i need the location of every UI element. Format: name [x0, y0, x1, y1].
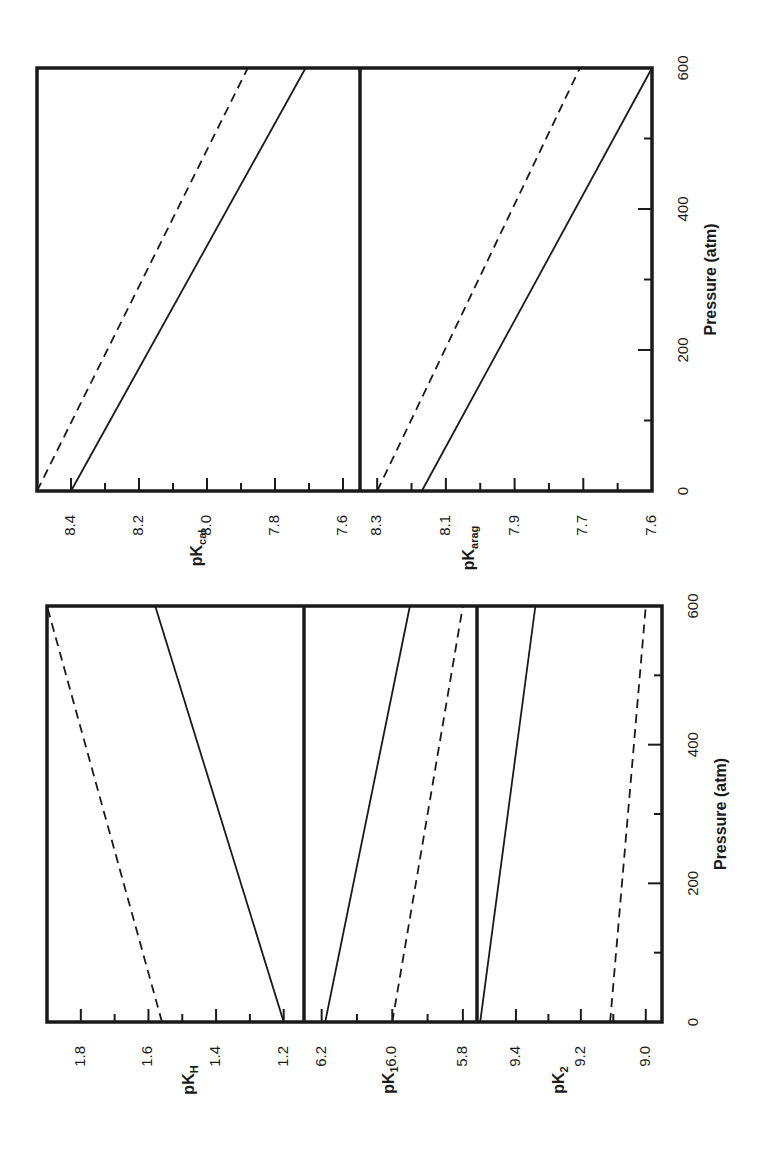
value-tick-label: 9.4: [506, 1046, 523, 1067]
value-tick-label: 9.0: [636, 1046, 653, 1067]
pK1-dashed-line: [392, 606, 463, 1022]
labels-layer: 0200400600Pressure (atm)8.48.28.07.87.6p…: [61, 55, 729, 1094]
figure-root: 0200400600Pressure (atm)8.48.28.07.87.6p…: [0, 0, 772, 1157]
pressure-tick-label: 600: [674, 55, 691, 80]
value-tick-label: 8.4: [61, 515, 78, 536]
axis-label-main: pK: [180, 1073, 197, 1095]
pressure-tick-label: 200: [674, 337, 691, 362]
pressure-tick-label: 600: [684, 593, 701, 618]
pressure-axis-title: Pressure (atm): [712, 758, 729, 870]
pKcal-dashed-line: [37, 68, 248, 491]
value-tick-label: 7.6: [333, 515, 350, 536]
frames-layer: [37, 68, 662, 1022]
axis-label-main: pK: [550, 1072, 567, 1094]
axis-label-subscript: cal: [196, 530, 208, 545]
value-tick-label: 8.2: [129, 515, 146, 536]
panel-axis-label-pKH: pKH: [180, 1065, 200, 1094]
panel-axis-label-pKcal: pKcal: [188, 530, 208, 567]
pK2-solid-line: [480, 606, 535, 1022]
pKH-solid-line: [155, 606, 284, 1022]
pKarag-dashed-line: [377, 68, 580, 491]
value-tick-label: 1.8: [71, 1046, 88, 1067]
value-tick-label: 7.8: [265, 515, 282, 536]
pressure-tick-label: 0: [684, 1018, 701, 1026]
value-tick-label: 1.6: [138, 1046, 155, 1067]
axis-label-subscript: 1: [388, 1066, 400, 1072]
value-tick-label: 8.3: [367, 515, 384, 536]
axis-label-main: pK: [460, 549, 477, 571]
value-tick-label: 9.2: [571, 1046, 588, 1067]
axis-label-subscript: arag: [468, 526, 480, 549]
data-lines-layer: [37, 68, 652, 1022]
figure-frame-bottom: [47, 606, 662, 1022]
value-tick-label: 8.1: [436, 515, 453, 536]
pK2-dashed-line: [610, 606, 646, 1022]
axis-label-main: pK: [188, 545, 205, 567]
pressure-tick-label: 200: [684, 871, 701, 896]
value-tick-label: 1.2: [274, 1046, 291, 1067]
pressure-tick-label: 400: [684, 732, 701, 757]
value-tick-label: 7.7: [573, 515, 590, 536]
value-tick-label: 6.0: [382, 1046, 399, 1067]
pressure-tick-label: 0: [674, 487, 691, 495]
axis-label-subscript: 2: [558, 1066, 570, 1072]
axis-label-main: pK: [380, 1072, 397, 1094]
panel-axis-label-pK1: pK1: [380, 1066, 400, 1093]
panel-axis-label-pKarag: pKarag: [460, 526, 480, 571]
pKcal-solid-line: [71, 68, 306, 491]
value-tick-label: 1.4: [206, 1046, 223, 1067]
value-tick-label: 6.2: [312, 1046, 329, 1067]
axis-label-subscript: H: [188, 1065, 200, 1073]
value-tick-label: 5.8: [453, 1046, 470, 1067]
chart-svg: 0200400600Pressure (atm)8.48.28.07.87.6p…: [0, 0, 772, 1157]
panel-axis-label-pK2: pK2: [550, 1066, 570, 1093]
value-tick-label: 7.9: [505, 515, 522, 536]
pressure-axis-title: Pressure (atm): [702, 223, 719, 335]
value-tick-label: 7.6: [642, 515, 659, 536]
pK1-solid-line: [325, 606, 410, 1022]
pressure-tick-label: 400: [674, 196, 691, 221]
figure-frame-top: [37, 68, 652, 491]
pKarag-solid-line: [422, 68, 652, 491]
pKH-dashed-line: [47, 606, 162, 1022]
